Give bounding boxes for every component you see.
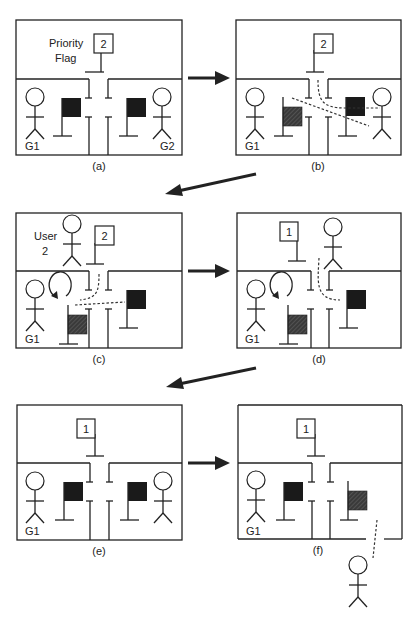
group-flag-g2-icon [339,290,366,328]
panel-caption: (c) [93,353,106,365]
user-2-icon [324,218,342,269]
user-g2-icon [153,88,171,139]
group-flag-g2-icon [119,98,146,136]
user-g2-leaving-icon [349,556,367,607]
group-flag-g2-hatched-icon [340,481,367,520]
panel-a: 2 Priority Flag G1 G2 (a) [16,20,182,172]
group-label-g1: G1 [25,525,40,537]
rotate-arrow-icon [270,272,292,299]
priority-flag-label: Priority [49,37,84,49]
group-flag-g1-hatched-icon [279,305,307,344]
arrow-right-icon [188,71,230,85]
group-flag-g1-icon [53,98,81,136]
group-flag-g1-hatched-icon [274,97,302,136]
priority-flag-sequence-diagram: 2 Priority Flag G1 G2 (a) [0,0,412,618]
priority-flag-value: 2 [320,38,326,50]
panel-c: 2 User 2 G1 (c) [16,213,182,365]
arrow-diagonal-icon [166,368,256,389]
user-g1-icon [247,280,265,331]
panel-caption: (d) [312,353,325,365]
priority-flag-value: 1 [303,423,309,435]
panel-d: 1 G1 (d) [237,213,401,365]
panel-caption: (b) [311,160,324,172]
svg-text:Flag: Flag [55,52,76,64]
user-g1-icon [26,280,44,331]
priority-flag-value: 2 [101,230,107,242]
priority-flag-value: 1 [83,423,89,435]
arrow-diagonal-icon [165,174,256,196]
panel-caption: (f) [313,544,323,556]
user-g1-icon [26,472,44,523]
priority-flag-icon: 1 [297,419,325,456]
priority-flag-icon: 2 [86,226,114,264]
rotate-arrow-icon [49,272,71,299]
group-flag-g1-hatched-icon [59,305,87,344]
group-flag-g1-icon [55,482,83,520]
priority-flag-value: 2 [100,38,106,50]
priority-flag-icon: 1 [280,222,306,261]
panel-caption: (e) [92,545,105,557]
svg-text:2: 2 [42,245,48,257]
priority-flag-icon: 1 [77,419,104,456]
group-label-g1: G1 [25,140,40,152]
group-flag-g2-icon [119,290,146,328]
user-g1-icon [26,88,44,139]
priority-flag-value: 1 [286,226,292,238]
arrow-right-icon [188,264,230,278]
group-label-g1: G1 [25,333,40,345]
user-2-icon [63,215,81,266]
user-2-label: User [34,230,58,242]
arrow-right-icon [188,456,230,470]
user-g1-icon [247,471,265,522]
user-g2-icon [373,88,391,139]
group-label-g1: G1 [245,333,260,345]
priority-flag-icon: 2 [306,34,333,72]
panel-b: 2 G1 (b) [236,20,401,172]
group-label-g1: G1 [245,140,260,152]
panel-e: 1 G1 (e) [17,405,182,557]
group-label-g1: G1 [246,525,261,537]
panel-caption: (a) [92,160,105,172]
movement-path [373,520,377,558]
group-flag-g2-icon [338,97,365,136]
priority-flag-icon: 2 [85,34,113,72]
group-label-g2: G2 [160,140,175,152]
panel-f: 1 G1 (f) [238,405,402,607]
group-flag-g1-icon [276,482,303,520]
group-flag-g2-icon [120,482,147,520]
user-g1-icon [246,88,264,139]
movement-path [75,302,125,305]
user-g2-icon [154,472,172,523]
